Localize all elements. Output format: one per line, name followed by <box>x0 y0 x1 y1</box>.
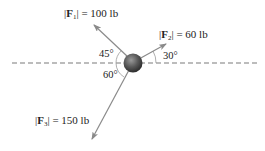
force-label-f1: |F1| = 100 lb <box>64 8 118 21</box>
force-magnitude-f3: = 150 lb <box>52 114 89 126</box>
force-label-f2: |F2| = 60 lb <box>159 29 208 42</box>
angle-arc-f2 <box>153 51 156 63</box>
force-diagram: |F1| = 100 lb |F2| = 60 lb |F3| = 150 lb… <box>0 0 265 151</box>
force-diagram-canvas <box>0 0 265 151</box>
force-arrow-f2 <box>139 44 166 59</box>
force-symbol: F <box>66 7 73 19</box>
force-magnitude-f1: = 100 lb <box>81 7 118 19</box>
abs-bar-right: | <box>171 28 173 40</box>
abs-bar-right: | <box>76 7 78 19</box>
force-symbol: F <box>161 28 168 40</box>
angle-label-f3: 60° <box>103 70 118 81</box>
body-sphere <box>124 54 143 73</box>
angle-label-f1: 45° <box>99 49 114 60</box>
abs-bar-right: | <box>47 114 49 126</box>
force-magnitude-f2: = 60 lb <box>176 28 207 40</box>
force-label-f3: |F3| = 150 lb <box>35 115 89 128</box>
force-symbol: F <box>37 114 44 126</box>
angle-arc-f1 <box>116 51 121 63</box>
angle-label-f2: 30° <box>163 51 178 62</box>
